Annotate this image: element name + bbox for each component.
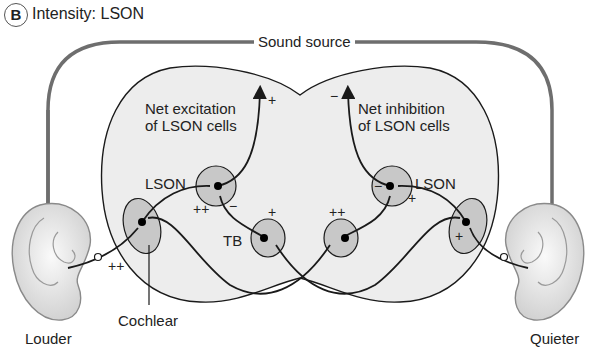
panel-letter-badge: B (4, 3, 28, 27)
left-lson-inhib-sign: − (229, 198, 237, 214)
cochlear-label: Cochlear (118, 312, 178, 329)
right-cochlear-sign: + (455, 228, 463, 244)
right-lson-inhib-sign: − (374, 178, 382, 194)
right-output-sign: − (330, 88, 338, 104)
left-ear-nerve-sign: ++ (108, 258, 124, 274)
left-ear-icon (12, 204, 90, 320)
left-lson-excit-sign: ++ (193, 201, 209, 217)
quieter-label: Quieter (530, 330, 579, 347)
louder-label: Louder (25, 330, 72, 347)
lson-intensity-diagram (0, 0, 596, 353)
panel-title: Intensity: LSON (32, 5, 144, 23)
right-lson-excit-sign: + (408, 190, 416, 206)
left-lson-label: LSON (145, 175, 186, 192)
right-ear-icon (506, 204, 584, 320)
net-excitation-label: Net excitation of LSON cells (145, 100, 237, 134)
left-tb-sign: + (268, 204, 276, 220)
left-output-sign: + (268, 92, 276, 108)
sound-source-label: Sound source (254, 33, 355, 50)
right-lson-label: LSON (415, 175, 456, 192)
tb-label: TB (223, 232, 242, 249)
right-tb-sign: ++ (329, 204, 345, 220)
net-inhibition-label: Net inhibition of LSON cells (358, 100, 450, 134)
